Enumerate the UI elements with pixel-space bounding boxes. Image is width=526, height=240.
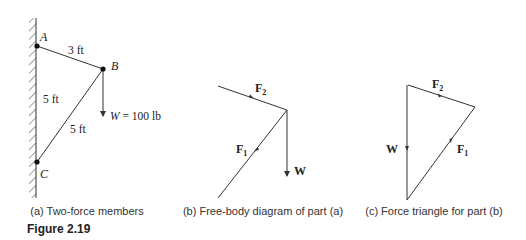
joint-a xyxy=(34,43,39,48)
fbd-w-label: W xyxy=(294,164,306,178)
joint-c xyxy=(34,159,39,164)
panel-b-free-body-diagram: F2 F1 W (b) Free-body diagram of part (a… xyxy=(183,81,343,217)
caption-a: (a) Two-force members xyxy=(30,205,144,217)
figure-title: Figure 2.19 xyxy=(27,222,91,236)
label-c: C xyxy=(40,167,49,181)
dim-ab: 3 ft xyxy=(68,44,84,56)
fbd-f1-arrow-icon xyxy=(254,147,259,152)
tri-f2-label: F2 xyxy=(432,77,443,93)
joint-b xyxy=(100,66,105,71)
tri-w-arrow-icon xyxy=(405,146,409,151)
tri-f1-label: F1 xyxy=(457,142,468,158)
load-value: = 100 lb xyxy=(120,110,162,122)
dim-ac: 5 ft xyxy=(43,93,59,105)
member-bc xyxy=(37,69,103,162)
tri-w-label: W xyxy=(386,142,398,156)
panel-c-force-triangle: F2 F1 W (c) Force triangle for part (b) xyxy=(365,77,503,217)
label-b: B xyxy=(111,59,119,73)
label-a: A xyxy=(39,30,48,44)
caption-b: (b) Free-body diagram of part (a) xyxy=(183,205,343,217)
fbd-f1-line xyxy=(218,110,287,198)
dim-bc: 5 ft xyxy=(70,123,86,135)
fbd-f2-label: F2 xyxy=(255,81,266,97)
figure-canvas: A B C 3 ft 5 ft 5 ft W = 100 lb (a) Two-… xyxy=(0,0,526,240)
load-label: W = 100 lb xyxy=(110,110,161,122)
fbd-f1-label: F1 xyxy=(236,142,247,158)
caption-c: (c) Force triangle for part (b) xyxy=(365,205,503,217)
panel-a-two-force-members: A B C 3 ft 5 ft 5 ft W = 100 lb (a) Two-… xyxy=(29,18,161,217)
fbd-f2-arrow-icon xyxy=(249,94,254,98)
